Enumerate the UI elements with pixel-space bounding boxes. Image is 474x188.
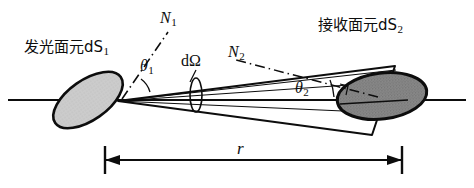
label-normal-2-sub: 2 [239,50,245,62]
angle-1-arc [141,79,150,92]
label-source-surface: 发光面元dS1 [24,40,109,57]
label-angle-2-text: θ [295,79,303,96]
label-normal-1-text: N [160,9,171,26]
distance-arrow-right [387,155,402,165]
label-solid-angle: dΩ [181,53,201,69]
label-normal-2: N2 [228,44,245,62]
label-normal-1-sub: 1 [171,16,177,28]
label-normal-2-text: N [228,43,239,60]
label-normal-1: N1 [160,10,177,28]
distance-arrow-left [105,155,120,165]
label-receiver-surface: 接收面元dS2 [318,18,403,35]
distance-dimension [105,146,402,174]
label-source-surface-sub: 1 [104,45,110,57]
label-angle-1-sub: 1 [148,64,154,76]
radiometry-geometry-figure: 发光面元dS1 接收面元dS2 N1 N2 dΩ θ1 θ2 r [0,0,474,188]
label-receiver-surface-sub: 2 [398,23,404,35]
label-angle-2: θ2 [295,80,309,98]
label-receiver-surface-text: 接收面元dS [318,16,397,34]
label-angle-1-text: θ [140,57,148,74]
label-source-surface-text: 发光面元dS [24,38,103,56]
label-angle-1: θ1 [140,58,154,76]
label-angle-2-sub: 2 [303,86,309,98]
label-distance: r [237,140,244,157]
